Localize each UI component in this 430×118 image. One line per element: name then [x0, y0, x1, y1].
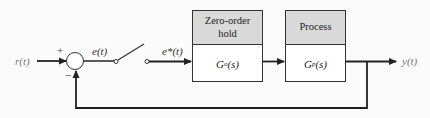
switch-terminal-left: [114, 60, 118, 64]
process-title: Process: [286, 11, 345, 45]
zoh-tf-main: G: [216, 58, 224, 70]
zoh-title: Zero-orderhold: [193, 11, 262, 45]
input-label: r(t): [15, 56, 30, 67]
zoh-title-line2: hold: [218, 28, 237, 39]
switch-terminal-right: [145, 60, 149, 64]
process-tf-arg: (s): [315, 58, 327, 70]
zoh-title-line1: Zero-order: [205, 15, 250, 26]
sampled-signal-label: e*(t): [162, 46, 183, 57]
plus-sign: +: [57, 45, 63, 56]
process-tf-main: G: [304, 58, 312, 70]
error-label: e(t): [92, 46, 107, 57]
summing-junction: [67, 53, 84, 70]
output-label: y(t): [402, 56, 417, 67]
zoh-tf-arg: (s): [227, 58, 239, 70]
zoh-transfer-function: Go(s): [193, 45, 262, 82]
process-title-text: Process: [299, 21, 331, 33]
process-transfer-function: Gp(s): [286, 45, 345, 82]
process-block: Process Gp(s): [285, 10, 346, 82]
block-diagram: r(t) + − e(t) e*(t) Zero-orderhold Go(s)…: [0, 0, 430, 118]
switch-blade: [118, 44, 144, 60]
zero-order-hold-block: Zero-orderhold Go(s): [192, 10, 263, 82]
minus-sign: −: [65, 70, 71, 81]
